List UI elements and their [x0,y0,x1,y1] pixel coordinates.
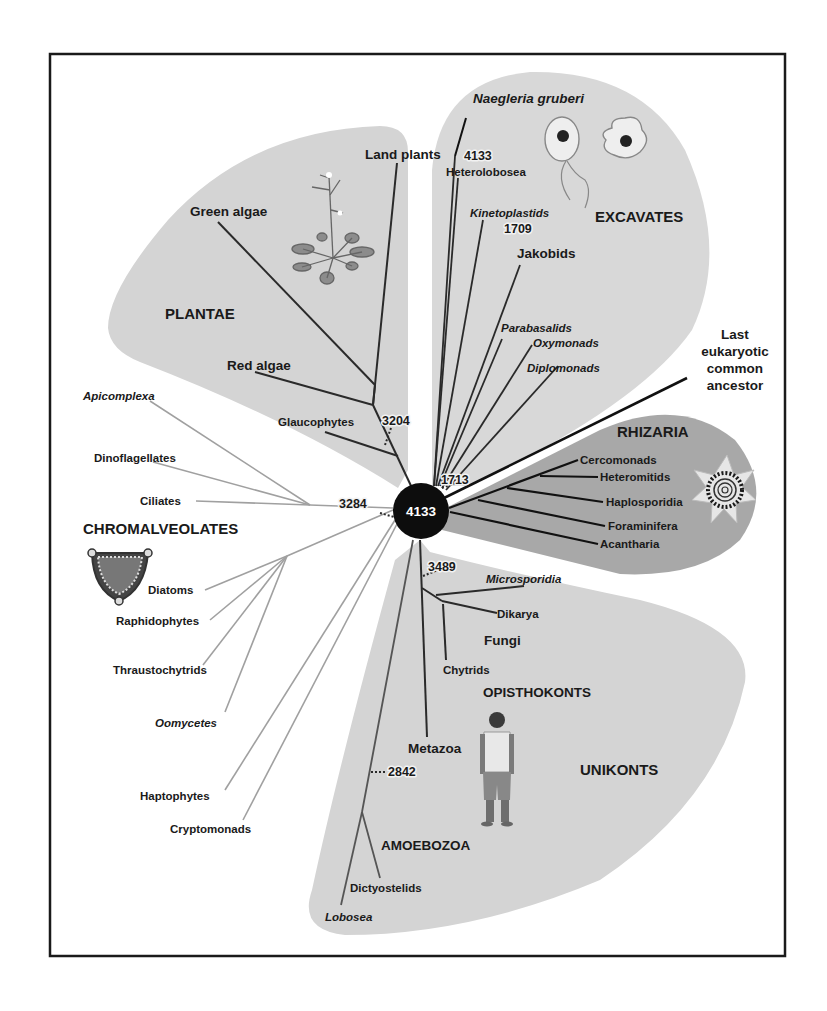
naegleria-genome-count: 4133 [464,149,492,163]
taxon-label-heteromitids: Heteromitids [600,471,670,483]
excavates-node-count: 1713 [441,473,469,487]
fungi-label: Fungi [484,633,521,648]
taxon-label-oomycetes: Oomycetes [155,717,217,729]
svg-text:ancestor: ancestor [707,378,764,393]
plantae-node-count: 3204 [382,414,410,428]
taxon-label-kinetoplastids: Kinetoplastids [470,207,549,219]
taxon-label-lobosea: Lobosea [325,911,373,923]
taxon-label-foraminifera: Foraminifera [608,520,678,532]
subgroup-label-opisthokonts: OPISTHOKONTS [483,685,591,700]
taxon-label-red-algae: Red algae [227,358,291,373]
taxon-label-diatoms: Diatoms [148,584,193,596]
taxon-label-chytrids: Chytrids [443,664,490,676]
taxon-label-apicomplexa: Apicomplexa [82,390,155,402]
taxon-label-dinoflagellates: Dinoflagellates [94,452,176,464]
taxon-label-cryptomonads: Cryptomonads [170,823,251,835]
svg-text:Last: Last [721,327,749,342]
taxon-label-dikarya: Dikarya [497,608,539,620]
taxon-label-dictyostelids: Dictyostelids [350,882,422,894]
taxon-label-parabasalids: Parabasalids [501,322,572,334]
supergroup-label-chromalveolates: CHROMALVEOLATES [83,520,238,537]
figure-frame-container: 4133 [0,0,827,1011]
amoebozoa-node-count: 2842 [388,765,416,779]
taxon-label-microsporidia: Microsporidia [486,573,562,585]
supergroup-label-unikonts: UNIKONTS [580,761,658,778]
subgroup-label-amoebozoa: AMOEBOZOA [381,838,470,853]
chromalveolates-node-count: 3284 [339,497,367,511]
species-label-naegleria-gruberi: Naegleria gruberi [473,91,584,106]
taxon-label-raphidophytes: Raphidophytes [116,615,199,627]
supergroup-label-excavates: EXCAVATES [595,208,683,225]
taxon-label-jakobids: Jakobids [517,246,576,261]
taxon-label-haplosporidia: Haplosporidia [606,496,683,508]
taxon-label-acantharia: Acantharia [600,538,660,550]
taxon-label-oxymonads: Oxymonads [533,337,599,349]
phylogenetic-tree-diagram: 4133 [0,0,827,1011]
kinetoplastids-count: 1709 [504,222,532,236]
taxon-label-thraustochytrids: Thraustochytrids [113,664,207,676]
taxon-label-cercomonads: Cercomonads [580,454,657,466]
taxon-label-land-plants: Land plants [365,147,441,162]
taxon-label-heterolobosea: Heterolobosea [446,166,526,178]
taxon-label-metazoa: Metazoa [408,741,462,756]
root-node-label: 4133 [406,504,437,519]
taxon-label-diplomonads: Diplomonads [527,362,600,374]
supergroup-label-plantae: PLANTAE [165,305,235,322]
svg-text:common: common [707,361,763,376]
taxon-label-ciliates: Ciliates [140,495,181,507]
supergroup-label-rhizaria: RHIZARIA [617,423,689,440]
taxon-label-haptophytes: Haptophytes [140,790,210,802]
taxon-label-green-algae: Green algae [190,204,268,219]
svg-text:eukaryotic: eukaryotic [701,344,769,359]
opisthokonts-node-count: 3489 [428,560,456,574]
taxon-label-glaucophytes: Glaucophytes [278,416,354,428]
